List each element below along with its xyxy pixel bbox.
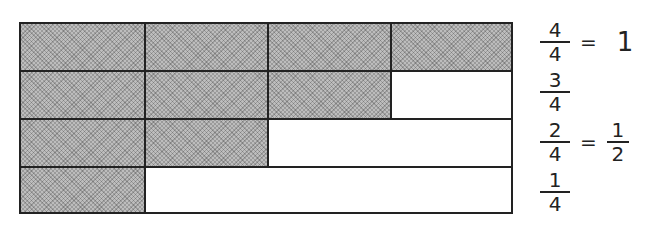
label-1-4: 1 4 [540, 170, 570, 214]
fraction-row-1-4 [21, 168, 511, 212]
fraction-1-4: 1 4 [540, 170, 570, 214]
cell-empty [392, 72, 511, 120]
cell-empty [269, 120, 511, 168]
cell-shaded [21, 120, 146, 168]
fraction-grid [19, 22, 513, 214]
label-4-4: 4 4 = 1 [540, 20, 633, 64]
fraction-row-3-4 [21, 72, 511, 120]
fraction-4-4: 4 4 [540, 20, 570, 64]
cell-shaded [21, 24, 146, 72]
label-2-4: 2 4 = 1 2 [540, 120, 629, 164]
cell-shaded [21, 72, 146, 120]
cell-empty [146, 168, 511, 212]
cell-shaded [146, 72, 269, 120]
fraction-row-2-4 [21, 120, 511, 168]
cell-shaded [21, 168, 146, 212]
equals-sign: = [580, 130, 597, 154]
label-3-4: 3 4 [540, 70, 570, 114]
fraction-row-4-4 [21, 24, 511, 72]
cell-shaded [269, 24, 392, 72]
cell-shaded [392, 24, 511, 72]
fraction-3-4: 3 4 [540, 70, 570, 114]
whole-one: 1 [617, 27, 634, 57]
fraction-2-4: 2 4 [540, 120, 570, 164]
fraction-1-2: 1 2 [607, 120, 629, 164]
cell-shaded [146, 24, 269, 72]
cell-shaded [269, 72, 392, 120]
equals-sign: = [580, 30, 597, 54]
cell-shaded [146, 120, 269, 168]
